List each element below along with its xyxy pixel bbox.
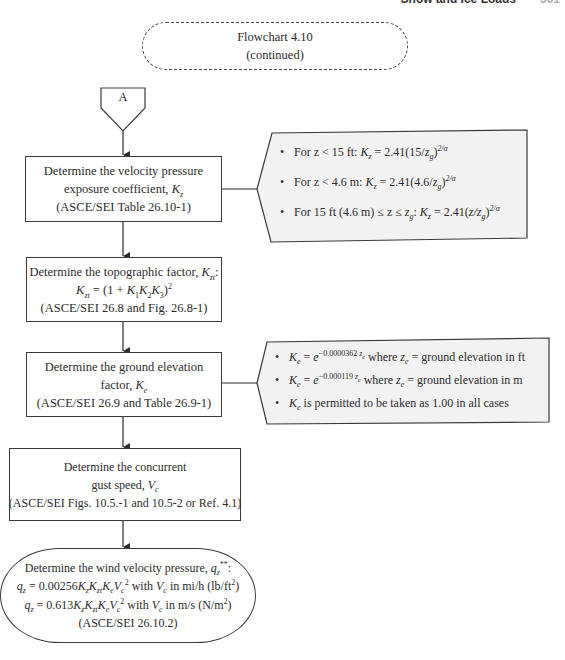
annotation-ke: Ke = e−0.0000362 ze where ze = ground el… [275, 349, 547, 412]
flowchart-subtitle: (continued) [246, 46, 304, 64]
step-topographic-factor: Determine the topographic factor, Kzt: K… [26, 257, 222, 322]
terminal-text: Determine the wind velocity pressure, qz… [25, 559, 231, 578]
annotation-kz-item: For z < 15 ft: Kz = 2.41(15/zg)2/α [280, 144, 525, 161]
step-text: gust speed, Vc [91, 476, 158, 494]
step-reference: (ASCE/SEI 26.9 and Table 26.9-1) [37, 394, 212, 412]
annotation-kz-item: For 15 ft (4.6 m) ≤ z ≤ zg: Kz = 2.41(z/… [280, 204, 525, 221]
terminal-reference: (ASCE/SEI 26.10.2) [79, 614, 178, 633]
step-reference: (ASCE/SEI Table 26.10-1) [56, 198, 191, 216]
step-formula: Kzt = (1 + K1K2K3)2 [76, 281, 172, 299]
step-ground-elevation-factor: Determine the ground elevation factor, K… [26, 352, 222, 417]
step-reference: (ASCE/SEI Figs. 10.5.-1 and 10.5-2 or Re… [9, 494, 241, 512]
step-text: factor, Ke [101, 376, 148, 394]
annotation-ke-item: Ke is permitted to be taken as 1.00 in a… [275, 395, 547, 412]
flowchart-title-box: Flowchart 4.10 (continued) [142, 22, 408, 70]
offpage-connector-label: A [101, 90, 145, 105]
step-velocity-pressure-exposure: Determine the velocity pressure exposure… [25, 156, 222, 222]
step-text: Determine the concurrent [64, 458, 187, 476]
terminal-wind-velocity-pressure: Determine the wind velocity pressure, qz… [0, 548, 256, 643]
step-reference: (ASCE/SEI 26.8 and Fig. 26.8-1) [40, 299, 207, 317]
annotation-ke-item: Ke = e−0.0000362 ze where ze = ground el… [275, 349, 547, 366]
annotation-kz-item: For z < 4.6 m: Kz = 2.41(4.6/zg)2/α [280, 174, 525, 191]
step-text: Determine the ground elevation [45, 358, 204, 376]
annotation-ke-item: Ke = e−0.000119 ze where ze = ground ele… [275, 372, 547, 389]
step-concurrent-gust-speed: Determine the concurrent gust speed, Vc … [9, 448, 241, 521]
flowchart-title: Flowchart 4.10 [237, 28, 313, 46]
step-text: Determine the topographic factor, Kzt: [29, 263, 218, 281]
terminal-formula-us: qz = 0.00256KzKztKeVc2 with Vc in mi/h (… [17, 577, 239, 596]
terminal-formula-si: qz = 0.613KzKztKeVc2 with Vc in m/s (N/m… [24, 596, 231, 615]
step-text: Determine the velocity pressure [44, 162, 203, 180]
step-text: exposure coefficient, Kz [64, 180, 183, 198]
annotation-kz: For z < 15 ft: Kz = 2.41(15/zg)2/α For z… [280, 144, 525, 221]
